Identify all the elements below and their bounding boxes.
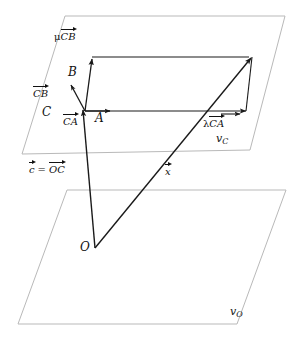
point-label-B: B — [68, 66, 77, 78]
point-label-A: A — [95, 112, 104, 124]
plane-lower-outline — [18, 190, 286, 324]
vector-overarrow-c: c — [29, 164, 35, 175]
vector-diagram: C A B O μCB CB CA λCA c=OC x vC vO — [0, 0, 299, 343]
vector-label-mu-CB: μCB — [54, 31, 76, 42]
vector-name-CB-unit: CB — [33, 89, 48, 99]
vector-overarrow-OC: OC — [49, 164, 65, 175]
vector-overarrow-x: x — [165, 166, 171, 177]
vector-c-OC — [83, 110, 95, 248]
vector-label-c-equals-OC: c=OC — [29, 164, 65, 175]
vector-label-CA: CA — [63, 116, 78, 127]
vector-overarrow-CB: CB — [61, 31, 76, 42]
vector-CB — [71, 85, 85, 111]
vector-name-x: x — [165, 167, 171, 177]
vector-overarrow-CA: CA — [209, 118, 224, 129]
vector-overarrow-CA-unit: CA — [63, 116, 78, 127]
vector-name-CA: CA — [209, 119, 224, 129]
vector-label-CB: CB — [33, 88, 48, 99]
plane-label-lower-subscript: O — [236, 310, 242, 319]
vector-label-x: x — [165, 166, 171, 177]
vector-name-CA-unit: CA — [63, 117, 78, 127]
equals-sign: = — [35, 164, 49, 175]
plane-label-upper-subscript: C — [222, 137, 228, 146]
vector-name-c: c — [29, 165, 35, 175]
point-label-C: C — [42, 106, 51, 118]
vector-x — [95, 58, 251, 248]
plane-label-upper: vC — [216, 133, 228, 146]
vector-name-OC: OC — [49, 165, 65, 175]
vector-name-CB: CB — [61, 32, 76, 42]
plane-label-lower: vO — [230, 306, 243, 319]
parallelogram-right-edge — [246, 57, 252, 111]
vector-overarrow-CB-unit: CB — [33, 88, 48, 99]
point-label-O: O — [80, 241, 90, 253]
vector-label-lambda-CA: λCA — [203, 118, 224, 129]
vector-mu-CB — [85, 59, 92, 111]
